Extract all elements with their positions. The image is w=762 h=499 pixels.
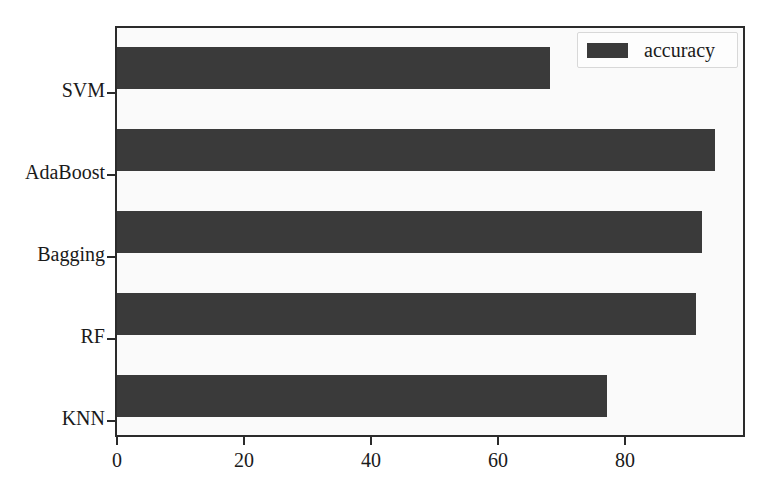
y-tick-mark-knn xyxy=(107,420,116,422)
y-tick-label-knn: KNN xyxy=(5,407,105,430)
bar-chart-figure: SVMAdaBoostBaggingRFKNN 020406080 accura… xyxy=(0,0,762,499)
bar-bagging xyxy=(117,211,702,253)
bar-svm xyxy=(117,47,550,89)
y-tick-label-adaboost: AdaBoost xyxy=(5,161,105,184)
y-tick-label-svm: SVM xyxy=(5,79,105,102)
y-tick-mark-bagging xyxy=(107,256,116,258)
bar-adaboost xyxy=(117,129,715,171)
y-tick-label-rf: RF xyxy=(5,325,105,348)
x-tick-label-20: 20 xyxy=(214,449,274,472)
y-tick-label-bagging: Bagging xyxy=(5,243,105,266)
legend: accuracy xyxy=(577,32,738,68)
x-tick-label-40: 40 xyxy=(341,449,401,472)
bar-rf xyxy=(117,293,696,335)
x-tick-label-80: 80 xyxy=(595,449,655,472)
x-tick-mark-0 xyxy=(116,437,118,445)
x-tick-mark-80 xyxy=(624,437,626,445)
legend-swatch-accuracy xyxy=(587,43,628,58)
legend-label-accuracy: accuracy xyxy=(644,39,715,62)
bar-knn xyxy=(117,375,607,417)
x-tick-mark-20 xyxy=(243,437,245,445)
x-tick-mark-60 xyxy=(497,437,499,445)
y-tick-mark-rf xyxy=(107,338,116,340)
y-tick-mark-svm xyxy=(107,92,116,94)
x-tick-label-60: 60 xyxy=(468,449,528,472)
plot-area xyxy=(115,26,745,437)
y-tick-mark-adaboost xyxy=(107,174,116,176)
x-tick-label-0: 0 xyxy=(87,449,147,472)
x-tick-mark-40 xyxy=(370,437,372,445)
